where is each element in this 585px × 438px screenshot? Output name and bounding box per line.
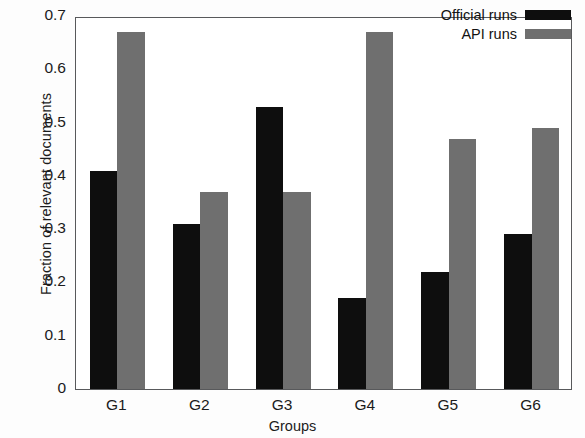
legend-item-api-runs: API runs <box>461 26 571 42</box>
bar-chart-figure: Fraction of relevant documents 00.10.20.… <box>0 0 585 438</box>
y-axis-tick-label: 0 <box>10 379 66 397</box>
bar-g5-api <box>449 139 477 389</box>
legend-label: API runs <box>461 26 517 42</box>
y-axis-tick-label: 0.4 <box>10 166 66 184</box>
bar-g2-official <box>173 224 201 389</box>
x-axis-tick-label: G4 <box>335 396 395 414</box>
bar-g5-official <box>421 272 449 389</box>
bar-g3-api <box>283 192 311 389</box>
y-axis-tick-label: 0.1 <box>10 326 66 344</box>
y-axis-tick-label: 0.3 <box>10 219 66 237</box>
y-axis-tick-label: 0.6 <box>10 59 66 77</box>
x-axis-tick-label: G5 <box>418 396 478 414</box>
legend-label: Official runs <box>441 7 517 23</box>
bar-g3-official <box>256 107 284 389</box>
plot-area <box>75 17 572 390</box>
legend-color-swatch <box>525 10 571 20</box>
y-axis-tick-label: 0.7 <box>10 6 66 24</box>
bar-g1-api <box>117 32 145 389</box>
y-axis-title: Fraction of relevant documents <box>38 44 54 344</box>
x-axis-tick-label: G1 <box>86 396 146 414</box>
legend-color-swatch <box>525 29 571 39</box>
legend-item-official-runs: Official runs <box>441 7 571 23</box>
x-axis-title: Groups <box>0 418 585 434</box>
bar-g4-api <box>366 32 394 389</box>
chart-legend: Official runsAPI runs <box>441 7 571 42</box>
x-axis-tick-label: G2 <box>169 396 229 414</box>
bar-g6-official <box>504 234 532 389</box>
x-axis-tick-label: G6 <box>501 396 561 414</box>
y-axis-tick-label: 0.5 <box>10 113 66 131</box>
bar-g1-official <box>90 171 118 389</box>
bar-g4-official <box>338 298 366 389</box>
x-axis-tick-label: G3 <box>252 396 312 414</box>
bar-g2-api <box>200 192 228 389</box>
bar-g6-api <box>532 128 560 389</box>
bars-container <box>76 18 571 389</box>
y-axis-tick-label: 0.2 <box>10 272 66 290</box>
